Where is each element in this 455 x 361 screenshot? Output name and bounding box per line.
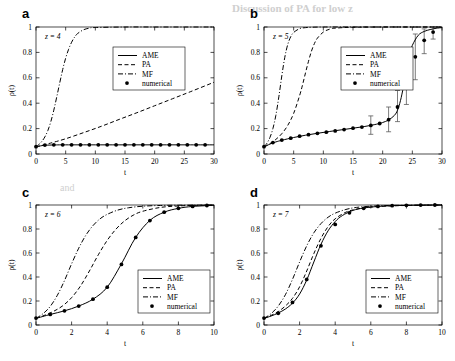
data-marker-d (419, 203, 423, 207)
data-marker-a (70, 143, 74, 147)
data-marker-d (405, 203, 409, 207)
data-marker-a (52, 143, 56, 147)
data-marker-a (114, 143, 118, 147)
panel-b: b05101520253000.20.40.60.81tρ(t)z = 5AME… (235, 6, 446, 177)
data-marker-a (123, 143, 127, 147)
x-tick-label-c-4: 8 (177, 328, 181, 337)
z-annotation-b: z = 5 (272, 32, 289, 41)
data-marker-a (61, 143, 65, 147)
x-tick-label-b-2: 10 (320, 157, 328, 166)
x-tick-label-b-4: 20 (379, 157, 387, 166)
y-tick-label-c-5: 1 (28, 201, 32, 210)
legend-marker-icon-b (353, 81, 357, 85)
x-tick-label-a-1: 5 (64, 157, 68, 166)
data-marker-b (413, 55, 417, 59)
y-tick-label-b-4: 0.8 (251, 48, 261, 57)
x-tick-label-a-6: 30 (210, 157, 218, 166)
legend-label-numerical-b: numerical (370, 79, 400, 88)
y-tick-label-b-0: 0 (256, 150, 260, 159)
data-marker-a (141, 143, 145, 147)
data-marker-c (134, 236, 138, 240)
y-tick-label-b-2: 0.4 (251, 99, 261, 108)
data-marker-a (88, 143, 92, 147)
data-marker-a (177, 143, 181, 147)
y-axis-label-a: ρ(t) (7, 85, 16, 96)
data-marker-a (150, 143, 154, 147)
legend-label-numerical-c: numerical (167, 302, 197, 311)
x-tick-label-b-0: 0 (262, 157, 266, 166)
legend-a: AMEPAMFnumerical (113, 47, 185, 90)
data-marker-b (378, 122, 382, 126)
y-tick-label-a-0: 0 (28, 150, 32, 159)
x-tick-label-a-2: 10 (92, 157, 100, 166)
x-tick-label-d-4: 8 (405, 328, 409, 337)
y-tick-label-c-0: 0 (28, 321, 32, 330)
data-marker-c (177, 206, 181, 210)
data-marker-b (316, 131, 320, 135)
legend-marker-icon-a (125, 81, 129, 85)
data-marker-c (91, 297, 95, 301)
x-tick-label-d-3: 6 (369, 328, 373, 337)
x-tick-label-b-1: 5 (292, 157, 296, 166)
legend-label-ame-a: AME (142, 51, 159, 60)
data-marker-d (376, 205, 380, 209)
x-tick-label-a-0: 0 (34, 157, 38, 166)
legend-label-ame-d: AME (395, 274, 412, 283)
x-axis-label-c: t (124, 339, 127, 348)
legend-d: AMEPAMFnumerical (366, 270, 438, 313)
legend-label-numerical-a: numerical (142, 79, 172, 88)
data-marker-a (132, 143, 136, 147)
plot-frame-a (36, 27, 214, 154)
legend-b: AMEPAMFnumerical (341, 47, 413, 90)
legend-marker-icon-c (150, 304, 154, 308)
data-marker-a (105, 143, 109, 147)
panel-c: c024681000.20.40.60.81tρ(t)z = 6AMEPAMFn… (7, 185, 218, 348)
data-marker-b (396, 105, 400, 109)
data-marker-b (360, 125, 364, 129)
x-tick-label-c-5: 10 (210, 328, 218, 337)
legend-label-numerical-d: numerical (395, 302, 425, 311)
x-axis-label-d: t (352, 339, 355, 348)
panel-a: a05101520253000.20.40.60.81tρ(t)z = 4AME… (7, 6, 218, 177)
x-axis-label-a: t (124, 168, 127, 177)
panel-letter-b: b (250, 6, 258, 21)
x-tick-label-c-2: 4 (105, 328, 109, 337)
y-tick-label-c-3: 0.6 (23, 249, 33, 258)
data-marker-d (305, 278, 309, 282)
x-axis-label-b: t (352, 168, 355, 177)
y-tick-label-c-2: 0.4 (23, 273, 33, 282)
y-tick-label-d-0: 0 (256, 321, 260, 330)
data-marker-d (276, 311, 280, 315)
x-tick-label-c-3: 6 (141, 328, 145, 337)
legend-label-mf-c: MF (167, 293, 178, 302)
data-marker-a (168, 143, 172, 147)
panel-d: d024681000.20.40.60.81tρ(t)z = 7AMEPAMFn… (235, 185, 446, 348)
legend-label-mf-d: MF (395, 293, 406, 302)
data-marker-b (262, 145, 266, 149)
data-marker-a (96, 143, 100, 147)
x-tick-label-c-1: 2 (70, 328, 74, 337)
data-marker-a (185, 143, 189, 147)
y-tick-label-a-5: 1 (28, 23, 32, 32)
legend-label-pa-b: PA (370, 60, 379, 69)
y-tick-label-a-3: 0.6 (23, 73, 33, 82)
data-marker-c (63, 309, 67, 313)
data-marker-a (79, 143, 83, 147)
y-axis-label-d: ρ(t) (235, 259, 244, 270)
data-marker-c (120, 263, 124, 267)
data-marker-b (333, 129, 337, 133)
legend-label-mf-b: MF (370, 70, 381, 79)
data-marker-d (333, 223, 337, 227)
data-marker-b (298, 134, 302, 138)
data-marker-d (362, 206, 366, 210)
y-tick-label-b-3: 0.6 (251, 73, 261, 82)
data-marker-d (262, 316, 266, 320)
y-tick-label-c-1: 0.2 (23, 297, 33, 306)
x-tick-label-d-2: 4 (333, 328, 337, 337)
data-marker-b (307, 133, 311, 137)
data-marker-b (324, 130, 328, 134)
legend-label-mf-a: MF (142, 70, 153, 79)
y-axis-label-c: ρ(t) (7, 259, 16, 270)
x-tick-label-c-0: 0 (34, 328, 38, 337)
four-panel-figure: a05101520253000.20.40.60.81tρ(t)z = 4AME… (0, 0, 455, 361)
